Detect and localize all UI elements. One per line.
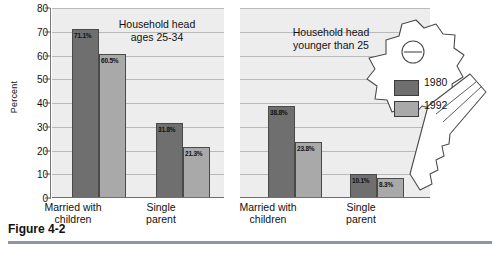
panel-baseline-left [52, 197, 224, 198]
gridline [52, 8, 224, 9]
y-tickmark-50 [45, 79, 50, 80]
bar-value-label: 21.3% [185, 150, 202, 157]
bar-value-label: 38.8% [270, 109, 287, 116]
key-icon [350, 14, 499, 214]
y-axis: 80 70 60 50 40 30 20 10 0 [14, 8, 48, 198]
legend-swatch-1980 [394, 80, 419, 96]
y-axis-line [50, 8, 51, 199]
bar-value-label: 71.1% [74, 32, 91, 39]
legend-label-1992: 1992 [424, 99, 447, 111]
y-tickmark-10 [45, 174, 50, 175]
caption-rule [8, 241, 492, 244]
bar-1980-single-parent: 31.8% [156, 123, 183, 199]
gridline [240, 8, 430, 9]
bar-value-label: 31.8% [158, 126, 175, 133]
bar-value-label: 23.8% [297, 145, 314, 152]
panel-ages-25-34: Household head ages 25-34 71.1% 60.5% 31… [52, 8, 224, 198]
y-tickmark-30 [45, 126, 50, 127]
y-tickmark-40 [45, 103, 50, 104]
panel-title-left: Household head ages 25-34 [98, 18, 216, 43]
bar-1992-married-children: 60.5% [99, 54, 126, 198]
legend-key: 1980 1992 [350, 14, 499, 214]
y-tickmark-60 [45, 55, 50, 56]
y-tickmark-70 [45, 31, 50, 32]
bar-1992-married-children-right: 23.8% [295, 142, 322, 199]
chart-area: Percent 80 70 60 50 40 30 20 10 0 [0, 0, 499, 215]
bar-1980-married-children-right: 38.8% [268, 106, 295, 198]
legend-swatch-1992 [394, 101, 419, 117]
legend-label-1980: 1980 [424, 76, 447, 88]
y-tickmark-20 [45, 150, 50, 151]
figure-caption: Figure 4-2 [8, 222, 65, 236]
figure-4-2: Percent 80 70 60 50 40 30 20 10 0 [0, 0, 499, 257]
y-tickmark-80 [45, 8, 50, 9]
bar-1992-single-parent: 21.3% [183, 147, 210, 198]
category-label-single-parent-left: Single parent [100, 201, 222, 225]
bar-value-label: 60.5% [101, 57, 118, 64]
bar-1980-married-children: 71.1% [72, 29, 99, 198]
y-tickmark-0 [45, 198, 50, 199]
